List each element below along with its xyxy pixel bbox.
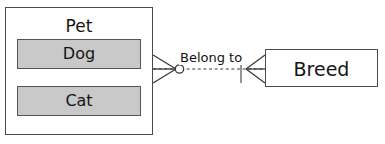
crows-foot-right-icon [246,55,265,83]
entity-pet-title: Pet [6,16,152,36]
crows-foot-left-icon [153,55,176,83]
entity-pet[interactable]: Pet Dog Cat [5,7,153,135]
attribute-dog[interactable]: Dog [17,39,141,69]
relationship-label[interactable]: Belong to [179,50,243,65]
entity-breed[interactable]: Breed [265,49,378,87]
attribute-dog-label: Dog [63,45,95,63]
zero-cardinality-circle-icon [175,65,183,73]
er-diagram-canvas: Pet Dog Cat Belong to Breed [0,0,385,144]
attribute-cat-label: Cat [65,92,92,110]
entity-breed-title: Breed [266,57,377,81]
attribute-cat[interactable]: Cat [17,86,141,116]
